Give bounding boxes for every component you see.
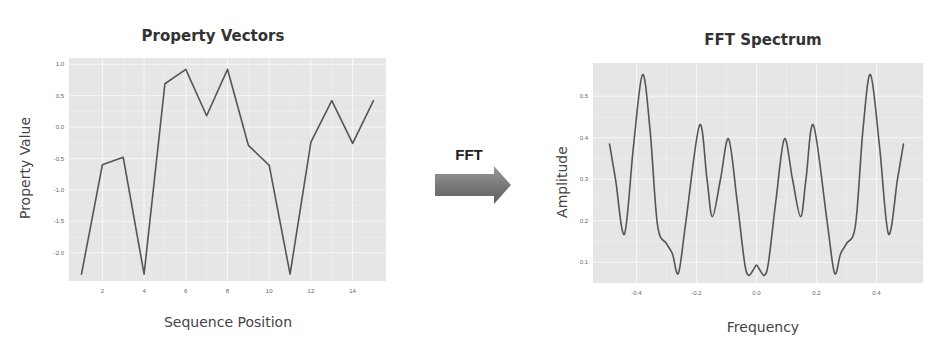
y-tick-label: -1.0 [54,187,65,193]
x-tick-label: -0.2 [691,290,702,296]
y-tick-label: 0.4 [580,135,589,141]
x-tick-label: 4 [142,288,146,294]
property-vectors-chart: 1.00.50.0-0.5-1.0-1.5-2.0 2468101214 Pro… [17,27,386,330]
figure: 1.00.50.0-0.5-1.0-1.5-2.0 2468101214 Pro… [0,0,938,348]
y-tick-label: 0.5 [580,93,589,99]
fft-arrow: FFT [435,146,511,204]
y-tick-label: 0.1 [580,259,589,265]
x-tick-label: 2 [101,288,105,294]
y-tick-label: -0.5 [54,156,65,162]
x-tick-label: 6 [184,288,188,294]
x-axis-label: Sequence Position [164,314,292,330]
x-tick-label: 0.2 [812,290,821,296]
y-tick-labels: 0.50.40.30.20.1 [580,93,589,265]
y-tick-label: 0.5 [56,93,65,99]
x-tick-labels: -0.4-0.20.00.20.4 [631,290,881,296]
y-tick-label: -1.5 [54,218,65,224]
fft-arrow-label: FFT [455,146,483,163]
x-tick-label: 0.4 [872,290,881,296]
x-tick-label: 10 [266,288,273,294]
right-arrow-icon [435,166,511,204]
x-tick-label: 0.0 [752,290,761,296]
x-tick-label: 12 [308,288,315,294]
x-tick-label: 14 [349,288,356,294]
x-axis-label: Frequency [727,319,799,335]
x-tick-label: 8 [226,288,230,294]
y-tick-label: 0.3 [580,176,589,182]
y-tick-label: 1.0 [56,61,65,67]
chart-title: FFT Spectrum [704,31,821,49]
x-tick-labels: 2468101214 [101,288,357,294]
chart-title: Property Vectors [142,27,285,45]
y-tick-labels: 1.00.50.0-0.5-1.0-1.5-2.0 [54,61,65,255]
y-axis-label: Amplitude [554,146,570,218]
y-axis-label: Property Value [17,117,33,219]
x-tick-label: -0.4 [631,290,642,296]
y-tick-label: 0.2 [580,218,589,224]
y-tick-label: 0.0 [56,124,65,130]
y-tick-label: -2.0 [54,250,65,256]
fft-spectrum-chart: 0.50.40.30.20.1 -0.4-0.20.00.20.4 FFT Sp… [554,31,923,335]
